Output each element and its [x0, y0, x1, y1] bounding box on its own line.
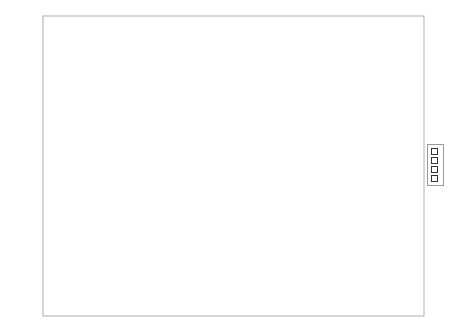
swatch-icon	[431, 148, 438, 155]
swatch-icon	[431, 157, 438, 164]
swatch-icon	[431, 175, 438, 182]
legend-item-both	[431, 165, 440, 174]
bar-chart	[0, 0, 470, 334]
legend-item-neither	[431, 174, 440, 183]
plot-area	[43, 16, 424, 316]
legend	[427, 144, 444, 186]
legend-item-work	[431, 147, 440, 156]
legend-item-play	[431, 156, 440, 165]
swatch-icon	[431, 166, 438, 173]
